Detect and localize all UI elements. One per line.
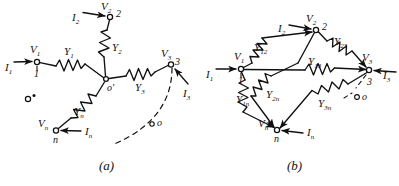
panel-a-node-3 xyxy=(168,62,173,67)
panel-b-label-current-3: I3 xyxy=(383,70,390,84)
panel-b-branch-23-lead-in xyxy=(319,32,328,41)
panel-b-label-voltage-1: V1 xyxy=(234,51,244,65)
panel-a-label-o-prime: o' xyxy=(107,83,114,93)
panel-a-label-voltage-1: V1 xyxy=(30,44,40,58)
panel-a-label-node-2: 2 xyxy=(116,9,121,19)
panel-a-label-current-n: In xyxy=(85,126,92,140)
panel-a-branch-n-lead-out xyxy=(59,118,71,128)
panel-a-node-n xyxy=(53,128,58,133)
panel-a-branch-2-lead-in xyxy=(107,20,110,30)
panel-a-resistor-y3 xyxy=(126,69,155,81)
panel-b-branch-13-lead-out xyxy=(335,68,367,70)
panel-b-label-node-1: 1 xyxy=(238,76,243,86)
panel-a-label-node-3: 3 xyxy=(175,57,180,67)
panel-b-label-admittance-2n: Y2n xyxy=(266,89,279,103)
panel-b-branch-13-lead-in xyxy=(244,70,305,71)
panel-b-branch-12-lead-out xyxy=(262,32,312,38)
panel-b-branch-3n-lead-out xyxy=(280,91,312,129)
panel-a-resistor-y2 xyxy=(99,30,111,57)
panel-b-label-admittance-23: Y23 xyxy=(334,36,347,50)
panel-a-branch-n-lead-in xyxy=(96,82,105,96)
panel-a-node-o-prime xyxy=(104,77,109,82)
panel-b-node-1 xyxy=(238,66,243,71)
panel-b-label-voltage-n: Vn xyxy=(258,118,268,132)
panel-a-branch-2-lead-out xyxy=(104,57,106,76)
panel-a-current-arrow-1 xyxy=(14,62,32,63)
panel-a-label-voltage-2: V2 xyxy=(101,1,111,15)
panel-a-reference-dot xyxy=(33,94,36,97)
panel-b-label-reference-o: o xyxy=(362,92,367,102)
panel-b-label-node-2: 2 xyxy=(322,22,327,32)
panel-b-label-node-3: 3 xyxy=(367,77,372,87)
panel-b-reference-point-o xyxy=(355,95,360,100)
panel-b-node-n xyxy=(274,127,279,132)
panel-b-label-voltage-2: V2 xyxy=(306,13,316,27)
panel-a-label-admittance-2: Y2 xyxy=(112,42,122,56)
panel-a-label-admittance-3: Y3 xyxy=(135,82,145,96)
panel-b-label-current-n: In xyxy=(307,127,314,141)
panel-b-caption: (b) xyxy=(287,158,302,174)
panel-b-resistor-y3n xyxy=(312,80,348,95)
panel-a-label-node-n: n xyxy=(53,135,58,145)
panel-b-label-admittance-3n: Y3n xyxy=(318,98,331,112)
panel-a-caption: (a) xyxy=(99,158,114,174)
panel-a-label-admittance-1: Y1 xyxy=(64,46,74,60)
panel-a-dashed-arc xyxy=(112,68,172,145)
panel-a-label-admittance-n: Yn xyxy=(74,106,84,120)
panel-a-label-arc-o: o xyxy=(157,118,162,128)
panel-a-resistor-y1 xyxy=(56,60,85,72)
panel-b-label-current-2: I2 xyxy=(278,23,285,37)
panel-a-label-voltage-3: V3 xyxy=(161,48,171,62)
panel-a-label-current-3: I3 xyxy=(183,88,190,102)
panel-b-label-admittance-1n: Y1n xyxy=(236,94,249,108)
panel-b-label-admittance-12: Y12 xyxy=(254,42,267,56)
panel-b-current-arrow-n xyxy=(282,131,303,134)
panel-a-arc-point-o xyxy=(150,122,154,126)
panel-b-node-3 xyxy=(366,67,371,72)
panel-a-branch-3-lead-in xyxy=(109,76,126,79)
panel-a-branch-3-lead-out xyxy=(155,66,168,73)
panel-a-label-voltage-n: Vn xyxy=(38,118,48,132)
panel-b-node-2 xyxy=(313,27,318,32)
panel-a-current-arrow-n xyxy=(61,131,81,132)
diagram-canvas xyxy=(0,0,399,186)
panel-a-reference-point-o xyxy=(25,96,30,101)
panel-b-dashed-hint-2 xyxy=(344,93,352,98)
panel-b-branch-12-lead-in xyxy=(244,63,253,68)
panel-a-branch-1-lead-in xyxy=(40,63,56,66)
panel-a-branch-1-lead-out xyxy=(85,64,104,78)
panel-a-node-1 xyxy=(34,59,39,64)
panel-a-label-current-2: I2 xyxy=(72,12,79,26)
panel-b-label-current-1: I1 xyxy=(206,69,213,83)
panel-a-current-arrow-3 xyxy=(175,69,188,84)
panel-a-label-current-1: I1 xyxy=(5,62,12,76)
panel-b-label-node-n: n xyxy=(274,134,279,144)
panel-b-dashed-hint-1 xyxy=(356,75,366,88)
circuit-figure: I1 V1 1 Y1 I2 V2 2 Y2 I3 V3 3 Y3 In Vn n… xyxy=(0,0,399,186)
panel-a-label-node-1: 1 xyxy=(34,69,39,79)
panel-b-label-admittance-13: Y13 xyxy=(308,56,321,70)
panel-b-label-voltage-3: V3 xyxy=(362,52,372,66)
